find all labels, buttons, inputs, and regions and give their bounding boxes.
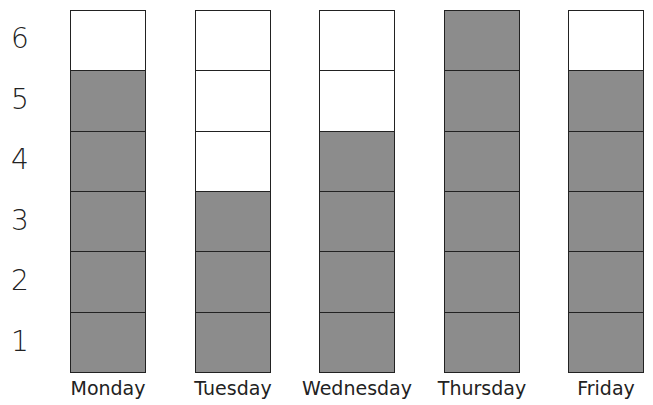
- y-tick-label: 5: [0, 86, 40, 114]
- bar-cell: [196, 131, 270, 191]
- bar-cell: [71, 312, 145, 372]
- x-tick-label: Thursday: [417, 377, 547, 399]
- bar-cell: [196, 312, 270, 372]
- bar-cell: [320, 11, 394, 70]
- bar-monday: [70, 10, 146, 373]
- bar-cell: [445, 70, 519, 130]
- y-tick-label: 3: [0, 207, 40, 235]
- y-tick-label: 2: [0, 267, 40, 295]
- y-tick-label: 1: [0, 328, 40, 356]
- bar-cell: [445, 251, 519, 311]
- x-tick-label: Tuesday: [168, 377, 298, 399]
- bar-cell: [569, 131, 643, 191]
- bar-cell: [445, 11, 519, 70]
- bar-cell: [71, 251, 145, 311]
- bar-cell: [196, 191, 270, 251]
- bar-cell: [445, 131, 519, 191]
- bar-cell: [196, 70, 270, 130]
- bar-cell: [569, 312, 643, 372]
- bar-cell: [196, 11, 270, 70]
- bar-wednesday: [319, 10, 395, 373]
- bar-cell: [569, 70, 643, 130]
- bar-cell: [320, 131, 394, 191]
- x-tick-label: Wednesday: [292, 377, 422, 399]
- y-tick-label: 4: [0, 146, 40, 174]
- bar-thursday: [444, 10, 520, 373]
- bar-cell: [71, 131, 145, 191]
- bar-cell: [445, 191, 519, 251]
- bar-cell: [569, 251, 643, 311]
- bar-cell: [320, 191, 394, 251]
- bar-cell: [569, 11, 643, 70]
- bar-cell: [445, 312, 519, 372]
- bar-cell: [320, 70, 394, 130]
- bar-cell: [71, 70, 145, 130]
- bar-cell: [320, 312, 394, 372]
- bar-cell: [320, 251, 394, 311]
- bar-cell: [71, 191, 145, 251]
- bar-cell: [71, 11, 145, 70]
- bar-tuesday: [195, 10, 271, 373]
- bar-friday: [568, 10, 644, 373]
- x-tick-label: Monday: [43, 377, 173, 399]
- x-tick-label: Friday: [541, 377, 653, 399]
- bar-cell: [569, 191, 643, 251]
- bar-cell: [196, 251, 270, 311]
- y-tick-label: 6: [0, 25, 40, 53]
